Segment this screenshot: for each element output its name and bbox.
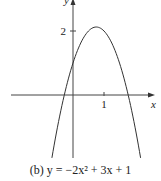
- parabola-curve: [52, 27, 141, 158]
- x-axis-label: x: [150, 98, 156, 110]
- chart-caption: (b) y = −2x² + 3x + 1: [0, 163, 161, 178]
- caption-equation: y = −2x² + 3x + 1: [47, 163, 132, 177]
- axes: [11, 0, 155, 158]
- caption-prefix: (b): [30, 163, 47, 177]
- y-axis-arrow-icon: [71, 0, 76, 5]
- x-tick-label: 1: [101, 98, 107, 110]
- x-axis-arrow-icon: [148, 93, 155, 98]
- parabola-plot: 12 x y: [0, 0, 161, 162]
- y-tick-label: 2: [61, 25, 67, 37]
- y-axis-label: y: [63, 0, 69, 6]
